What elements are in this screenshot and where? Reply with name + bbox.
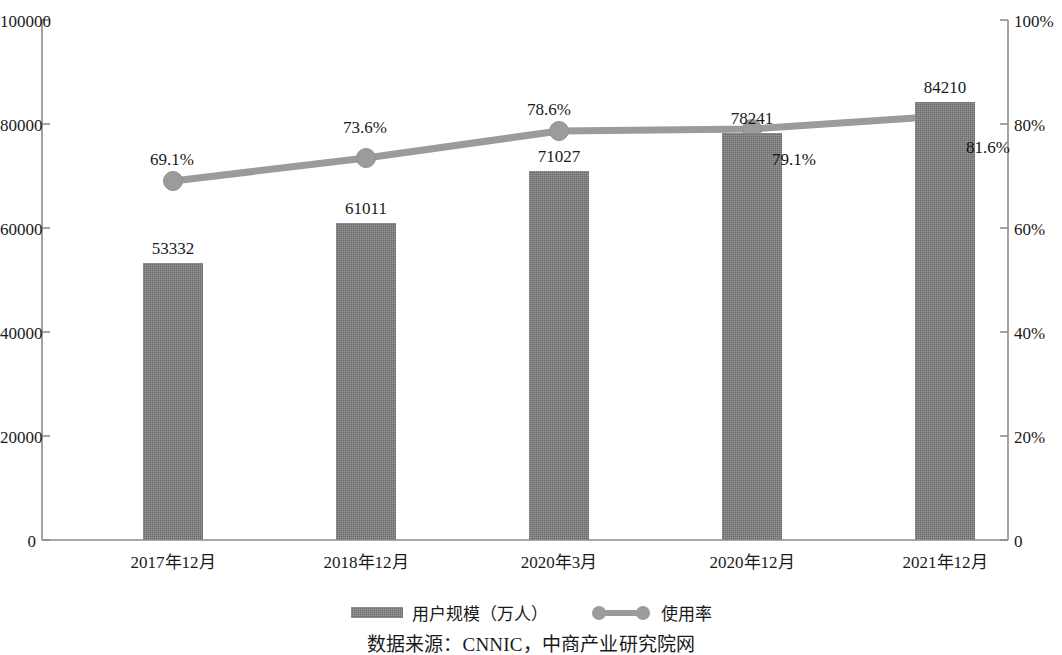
y-right-tick-0: 0: [1014, 533, 1023, 550]
usage-rate-label-2020-03: 78.6%: [527, 101, 571, 118]
usage-rate-marker: [164, 172, 183, 191]
chart-legend: 用户规模（万人） 使用率: [0, 600, 1062, 625]
y-right-tick-100: 100%: [1014, 13, 1054, 30]
y-right-tick-60: 60%: [1014, 221, 1045, 238]
bar-2021-12[interactable]: [915, 102, 975, 540]
usage-rate-label-2017-12: 69.1%: [150, 151, 194, 168]
y-left-tick-80000: 80000: [0, 117, 36, 134]
bar-value-2020-03: 71027: [499, 148, 619, 165]
bar-2020-12[interactable]: [722, 133, 782, 540]
bar-2018-12[interactable]: [336, 223, 396, 540]
bar-value-2021-12: 84210: [885, 79, 1005, 96]
y-left-tick-20000: 20000: [0, 429, 36, 446]
x-axis-label-2017-12: 2017年12月: [93, 554, 253, 571]
bar-value-2020-12: 78241: [692, 110, 812, 127]
left-axis: [42, 20, 50, 540]
usage-rate-label-2020-12: 79.1%: [772, 151, 816, 168]
x-axis-label-2021-12: 2021年12月: [865, 554, 1025, 571]
y-left-tick-0: 0: [0, 533, 36, 550]
legend-bar-swatch-icon: [351, 607, 403, 618]
y-left-tick-100000: 100000: [0, 13, 36, 30]
usage-rate-marker: [357, 149, 376, 168]
legend-item-user-scale[interactable]: 用户规模（万人）: [351, 600, 548, 625]
right-axis: [1000, 20, 1008, 540]
usage-rate-marker: [550, 122, 569, 141]
chart-container: 100000 80000 60000 40000 20000 0 100% 80…: [0, 0, 1062, 655]
legend-line-swatch-icon: [590, 605, 652, 621]
bar-2020-03[interactable]: [529, 171, 589, 540]
legend-label-user-scale: 用户规模（万人）: [412, 600, 548, 625]
legend-item-usage-rate[interactable]: 使用率: [590, 600, 712, 625]
legend-line-marker-icon: [590, 605, 652, 621]
y-left-tick-60000: 60000: [0, 221, 36, 238]
y-left-tick-40000: 40000: [0, 325, 36, 342]
y-right-tick-80: 80%: [1014, 117, 1045, 134]
source-note: 数据来源：CNNIC，中商产业研究院网: [0, 629, 1062, 655]
bar-value-2017-12: 53332: [113, 240, 233, 257]
usage-rate-label-2018-12: 73.6%: [343, 119, 387, 136]
y-right-tick-40: 40%: [1014, 325, 1045, 342]
legend-label-usage-rate: 使用率: [661, 600, 712, 625]
x-axis-label-2020-03: 2020年3月: [479, 554, 639, 571]
bar-value-2018-12: 61011: [306, 200, 426, 217]
y-right-tick-20: 20%: [1014, 429, 1045, 446]
bar-2017-12[interactable]: [143, 263, 203, 540]
usage-rate-label-2021-12: 81.6%: [966, 139, 1010, 156]
x-axis-label-2018-12: 2018年12月: [286, 554, 446, 571]
x-axis-label-2020-12: 2020年12月: [672, 554, 832, 571]
